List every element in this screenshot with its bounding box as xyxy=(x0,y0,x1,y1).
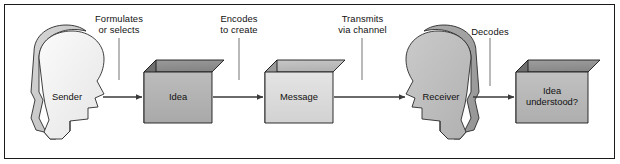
node-label-receiver: Receiver xyxy=(410,91,472,102)
node-label-understood: Idea understood? xyxy=(518,85,586,107)
node-label-sender: Sender xyxy=(38,91,96,102)
receiver-head-shape xyxy=(406,25,479,139)
sender-head-shape xyxy=(31,25,104,139)
communication-process-figure: Formulates or selects Encodes to create … xyxy=(0,0,620,164)
diagram-stage: Formulates or selects Encodes to create … xyxy=(0,0,620,164)
node-label-idea: Idea xyxy=(149,91,207,102)
step-label-encodes: Encodes to create xyxy=(194,13,284,36)
step-label-decodes: Decodes xyxy=(450,26,530,37)
node-label-message: Message xyxy=(266,91,332,102)
step-label-transmits: Transmits via channel xyxy=(314,13,411,36)
step-label-formulates: Formulates or selects xyxy=(69,13,169,36)
